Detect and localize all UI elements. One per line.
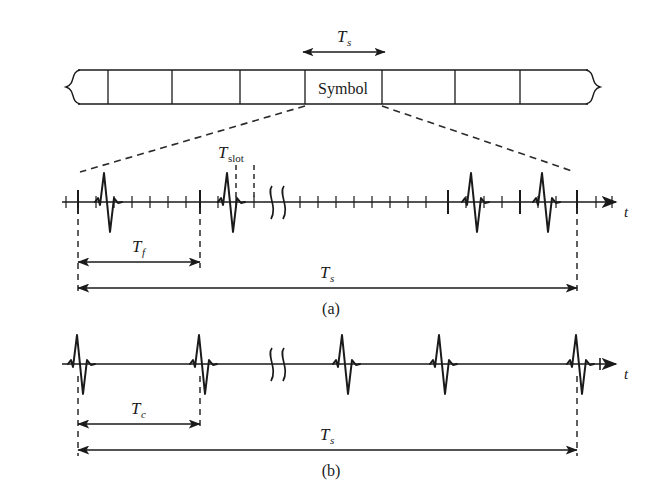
expansion-line-right: [382, 106, 575, 172]
panel-b-tc-dimension: Tc: [78, 399, 200, 424]
tslot-label: Tslot: [218, 143, 244, 164]
symbol-cell-label: Symbol: [318, 80, 368, 98]
panel-a-ts-label: Ts: [320, 263, 334, 284]
tf-label: Tf: [132, 237, 147, 258]
panel-b-ts-label: Ts: [320, 425, 334, 446]
left-break-brace: [66, 70, 80, 104]
panel-a-axis-label-t: t: [624, 204, 629, 220]
top-ts-subscript: s: [347, 36, 351, 48]
symbol-stream-row: Symbol: [66, 70, 600, 104]
panel-a-tf-dimension: Tf: [78, 237, 200, 262]
tc-label: Tc: [131, 399, 146, 420]
tc-subscript: c: [141, 408, 146, 420]
panel-a-tslot-guides: [236, 165, 254, 200]
tf-subscript: f: [142, 246, 147, 258]
panel-b: t Tc: [62, 335, 629, 480]
symbol-cell-dividers: [108, 70, 520, 104]
figure-canvas: Ts Symbol: [0, 0, 663, 497]
caption-a: (a): [322, 300, 340, 318]
expansion-guides: [80, 106, 575, 172]
expansion-line-left: [80, 106, 305, 172]
tslot-subscript: slot: [228, 152, 244, 164]
right-break-brace: [586, 70, 600, 104]
panel-a-ts-subscript: s: [330, 272, 334, 284]
uwb-timing-diagram: Ts Symbol: [0, 0, 663, 497]
caption-b: (b): [322, 462, 341, 480]
top-ts-dimension: Ts: [303, 27, 385, 52]
panel-a-ts-dimension: Ts: [78, 263, 577, 288]
panel-b-axis-label-t: t: [624, 366, 629, 382]
top-ts-label: Ts: [337, 27, 351, 48]
panel-b-ts-dimension: Ts: [78, 425, 577, 450]
panel-b-dimension-guides: [78, 376, 577, 456]
panel-b-ts-subscript: s: [330, 434, 334, 446]
panel-a: t: [62, 143, 629, 318]
